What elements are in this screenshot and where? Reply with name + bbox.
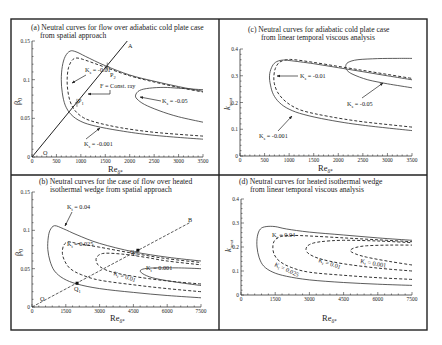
x-tick-label: 500 [261, 157, 269, 163]
figure: (a) Neutral curves for flow over adiabat… [0, 0, 442, 345]
annotation-kt-0-001-d: Kt = 0.001 [360, 257, 387, 270]
y-tick-label: 0.05 [21, 266, 31, 272]
x-tick-label: 1500 [270, 296, 281, 302]
x-tick-label: 500 [52, 158, 60, 164]
y-tick-label: 0.05 [21, 115, 31, 121]
annotation-c-ks-minus-0-01: Ks = -0.01 [300, 72, 326, 81]
label-p1: P1 [78, 97, 84, 106]
x-tick-label: 7500 [196, 308, 207, 314]
panel-b-curves [32, 223, 201, 307]
y-tick-label: 0.1 [23, 77, 30, 83]
x-tick-label: 1000 [284, 157, 295, 163]
y-tick-label: 0 [236, 292, 239, 298]
panel-c-title-line2: from linear temporal viscous analysis [261, 33, 375, 42]
x-tick-label: 0 [31, 308, 34, 314]
arrow-ks-minus-0-05 [140, 97, 161, 101]
neutral-curve [135, 87, 203, 122]
x-tick-label: 2000 [124, 158, 135, 164]
x-tick-label: 1000 [75, 158, 86, 164]
arrow-c-ks-minus-0-001 [278, 116, 292, 131]
x-tick-label: 2500 [149, 158, 160, 164]
panel-d-ylabel: kneut [223, 239, 234, 252]
y-tick-label: 0 [27, 154, 30, 160]
panel-c-axes: 050010001500200025003000350000.10.20.30.… [231, 46, 417, 163]
y-tick-label: 0.1 [231, 126, 238, 132]
annotation-ks-minus-0-001: Ks = -0.001 [84, 140, 113, 149]
annotation-c-ks-minus-0-001: Ks = -0.001 [259, 132, 288, 141]
annotation-ks-minus-0-01: Ks = -0.01 [85, 66, 111, 75]
panel-a-title-line2: from spatial approach [40, 31, 106, 40]
panel-a: (a) Neutral curves for flow over adiabat… [12, 23, 209, 175]
x-tick-label: 3000 [304, 296, 315, 302]
x-tick-label: 3000 [173, 158, 184, 164]
point-marker [136, 249, 139, 252]
annotation-kt-0-04-b: Kt = 0.04 [67, 203, 90, 212]
panel-b-xlabel: Reδ* [110, 313, 125, 324]
annotation-c-ks-minus-0-05: Ks = -0.05 [347, 100, 373, 109]
panel-b-ylabel: β0 [13, 249, 24, 256]
label-b: B [188, 216, 192, 223]
panel-d-axes: 01500300045006000750000.10.20.30.4 [232, 196, 417, 302]
arrow-ray [88, 90, 110, 94]
panel-c-curves [269, 58, 412, 130]
x-tick-label: 6000 [372, 296, 383, 302]
arrow-kt-0-04-b [65, 212, 72, 226]
label-origin-b: O [40, 295, 45, 302]
panel-c-ylabel: kneut [222, 97, 233, 110]
panel-c-xlabel: Reδ* [318, 163, 333, 174]
annotation-kt-0-04-d: Kt = 0.04 [272, 231, 295, 240]
panel-a-xlabel: Reδ* [108, 164, 123, 175]
panel-b: (b) Neutral curves for the case of flow … [13, 177, 207, 324]
panel-d-xlabel: Reδ* [322, 313, 337, 324]
arrow-c-ks-minus-0-05 [362, 83, 383, 98]
x-tick-label: 4500 [128, 308, 139, 314]
annotation-ray: F = Const. ray [100, 82, 136, 89]
y-tick-label: 0.15 [21, 38, 31, 44]
neutral-curve [48, 226, 201, 298]
annotation-kt-0-001-b: Kt = 0.001 [146, 264, 172, 273]
x-tick-label: 3500 [198, 158, 209, 164]
x-tick-label: 2500 [357, 157, 368, 163]
panel-b-title-line2: isothermal wedge from spatial approach [50, 185, 172, 194]
label-a: A [128, 42, 133, 49]
y-tick-label: 0 [27, 304, 30, 310]
x-tick-label: 2000 [333, 157, 344, 163]
x-tick-label: 6000 [162, 308, 173, 314]
x-tick-label: 4500 [338, 296, 349, 302]
neutral-curve [269, 60, 412, 131]
y-tick-label: 0.1 [232, 268, 239, 274]
x-tick-label: 0 [31, 158, 34, 164]
y-tick-label: 0.15 [21, 189, 31, 195]
panel-a-ylabel: β0 [12, 98, 23, 105]
x-tick-label: 3000 [94, 308, 105, 314]
y-tick-label: 0.3 [231, 73, 238, 79]
x-tick-label: 0 [240, 296, 243, 302]
x-tick-label: 7500 [407, 296, 418, 302]
x-tick-label: 3500 [407, 157, 418, 163]
y-tick-label: 0 [235, 153, 238, 159]
label-q1: Q1 [74, 285, 81, 294]
arrow-ks-minus-0-001 [86, 128, 100, 139]
panel-b-axes: 01500300045006000750000.050.10.15 [21, 189, 207, 314]
annotation-kt-0-025-b: Kt = 0.025 [67, 240, 93, 249]
annotation-ks-minus-0-05: Ks = -0.05 [162, 97, 188, 106]
annotation-kt-0-01-d: Kt = 0.01 [317, 256, 342, 271]
neutral-curve [274, 59, 412, 127]
x-tick-label: 3000 [382, 157, 393, 163]
y-tick-label: 0.1 [23, 227, 30, 233]
x-tick-label: 1500 [60, 308, 71, 314]
y-tick-label: 0.4 [232, 196, 239, 202]
panel-c: (c) Neutral curves for adiabatic cold pl… [222, 25, 418, 174]
x-tick-label: 0 [239, 157, 242, 163]
panel-d: (d) Neutral curves for heated isothermal… [223, 177, 418, 324]
label-p2: P2 [110, 71, 116, 80]
panel-d-title-line2: from linear temporal viscous analysis [250, 185, 364, 194]
arrow-ks-minus-0-01 [72, 75, 86, 83]
y-tick-label: 0.4 [231, 46, 238, 52]
y-tick-label: 0.3 [232, 220, 239, 226]
label-origin-a: O [43, 149, 48, 156]
